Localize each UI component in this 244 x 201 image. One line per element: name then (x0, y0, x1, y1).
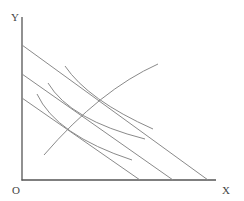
budget-line-2 (22, 74, 173, 180)
indifference-curve-3 (37, 94, 132, 160)
budget-line-1 (22, 45, 208, 180)
y-axis-label: Y (11, 11, 19, 23)
budget-line-3 (22, 98, 140, 180)
economics-diagram: Y X O (0, 0, 244, 201)
income-consumption-curve (44, 64, 158, 155)
indifference-curve-2 (48, 83, 145, 139)
origin-label: O (12, 184, 20, 196)
x-axis-label: X (222, 184, 230, 196)
